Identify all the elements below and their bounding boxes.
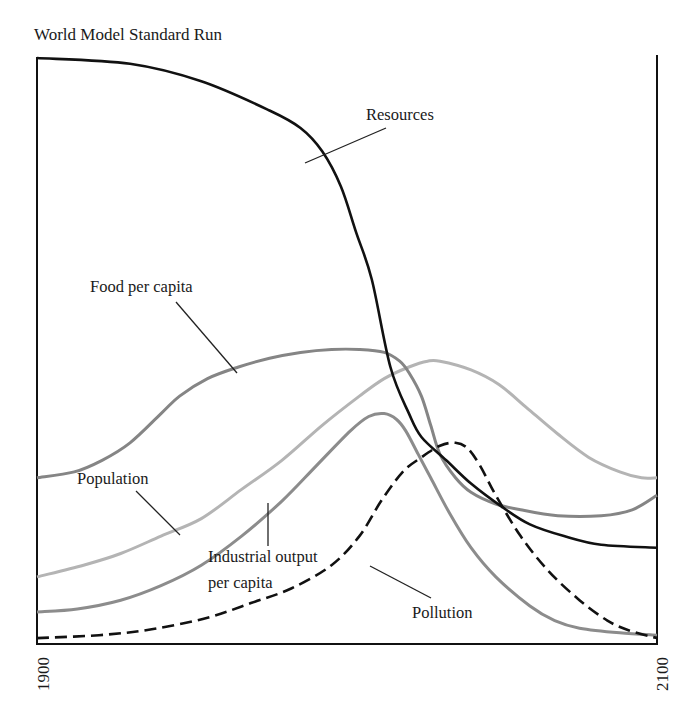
leader-population — [136, 491, 180, 535]
label-food-per-capita: Food per capita — [90, 277, 193, 296]
chart-title: World Model Standard Run — [34, 25, 222, 44]
label-population: Population — [77, 469, 149, 488]
x-tick-label-1900: 1900 — [34, 657, 53, 691]
x-tick-labels: 1900 2100 — [34, 657, 672, 691]
series-labels: Resources Food per capita Population Ind… — [77, 105, 473, 622]
leader-food-per-capita — [176, 302, 237, 373]
label-pollution: Pollution — [412, 603, 473, 622]
world-model-chart: World Model Standard Run 1900 2100 Resou… — [0, 0, 692, 720]
leader-pollution — [370, 566, 431, 598]
label-industrial-output-line2: per capita — [208, 573, 273, 592]
label-industrial-output-line1: Industrial output — [208, 547, 318, 566]
label-resources: Resources — [366, 105, 434, 124]
x-tick-label-2100: 2100 — [653, 657, 672, 691]
series-line-industrial-output-per-capita — [37, 413, 657, 635]
